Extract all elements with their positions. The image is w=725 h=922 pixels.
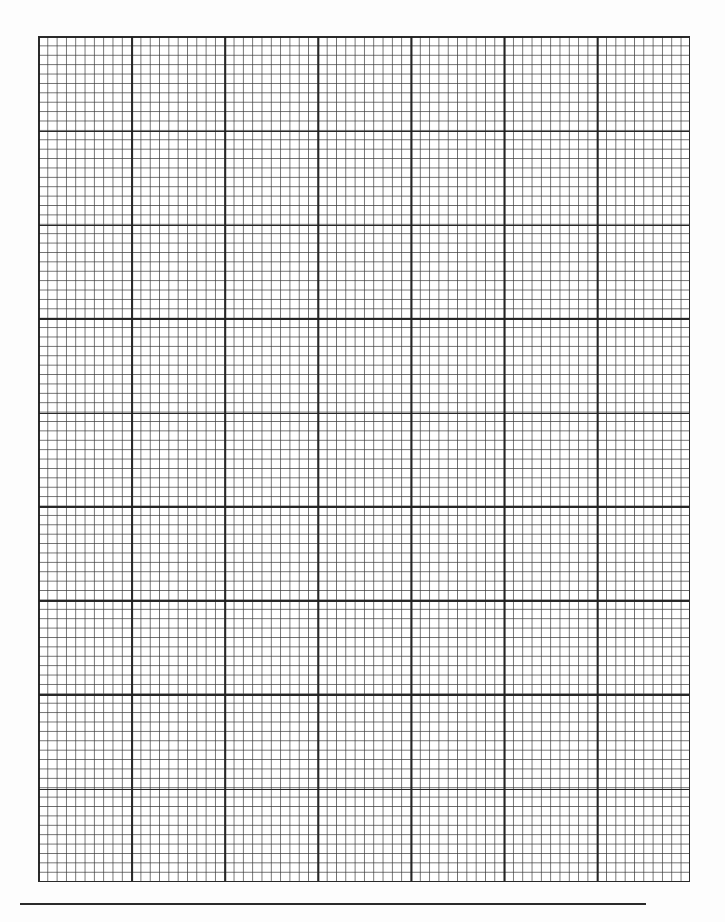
graph-grid [38, 36, 690, 882]
footer-rule-line [20, 903, 646, 905]
graph-paper-sheet [0, 0, 725, 922]
